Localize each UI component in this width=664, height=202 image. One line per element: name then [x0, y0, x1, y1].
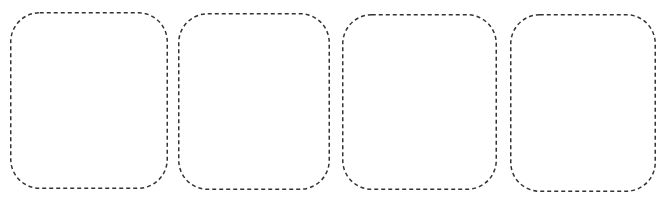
placeholder-card-content-2 [178, 13, 330, 190]
placeholder-card-content-1 [10, 12, 168, 189]
placeholder-card-row [0, 0, 664, 202]
placeholder-card-content-3 [342, 14, 497, 190]
placeholder-card-4[interactable] [510, 14, 656, 192]
placeholder-card-content-4 [510, 14, 656, 192]
placeholder-card-1[interactable] [10, 12, 168, 189]
canvas-root [0, 0, 664, 202]
placeholder-card-3[interactable] [342, 14, 497, 190]
placeholder-card-2[interactable] [178, 13, 330, 190]
